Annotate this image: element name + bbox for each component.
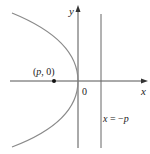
y-axis-label: y [68, 5, 74, 17]
x-axis-label: x [140, 85, 146, 97]
y-axis-arrowhead [76, 5, 81, 12]
parabola-diagram: y x 0 (p, 0) x = −p [0, 0, 150, 154]
x-axis-arrowhead [141, 79, 148, 84]
parabola-curve [12, 13, 78, 147]
origin-label: 0 [82, 86, 87, 97]
focus-label: (p, 0) [33, 66, 55, 78]
focus-point [52, 79, 56, 83]
x-axis [10, 79, 148, 84]
directrix-label: x = −p [102, 113, 129, 124]
